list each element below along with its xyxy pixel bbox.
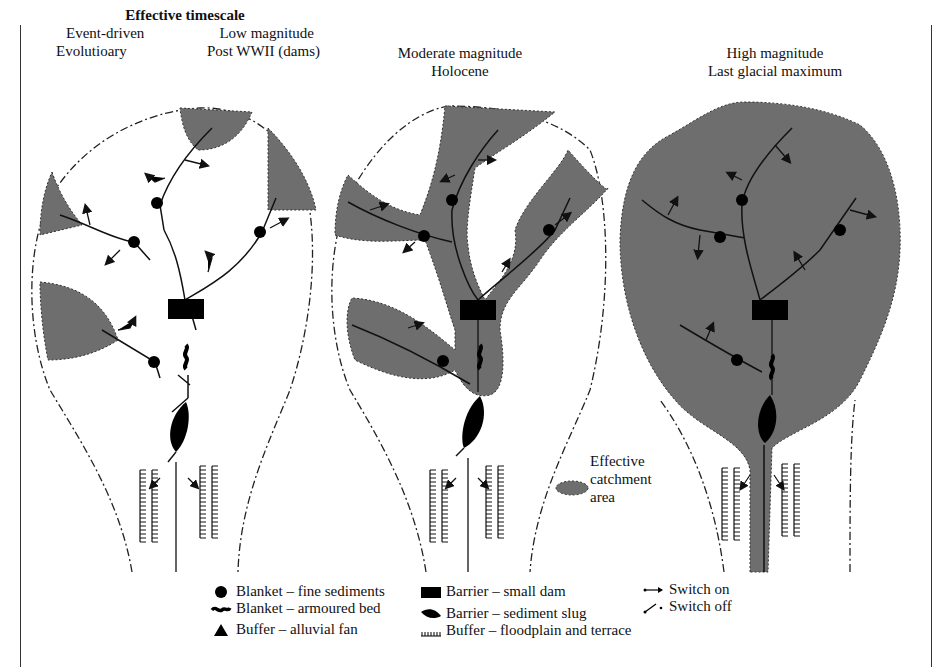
triangle-icon bbox=[210, 623, 232, 637]
legend-item: Barrier – small dam bbox=[420, 583, 631, 600]
panel3-dam bbox=[752, 300, 788, 320]
legend-label: Buffer – floodplain and terrace bbox=[446, 622, 631, 639]
legend-label: Blanket – armoured bed bbox=[236, 600, 381, 617]
catchment-label-line1: Effective bbox=[590, 452, 652, 470]
legend-label: Switch off bbox=[669, 598, 732, 615]
catchment-diagram bbox=[0, 0, 949, 667]
legend-item: Blanket – fine sediments bbox=[210, 583, 385, 600]
legend-item: Blanket – armoured bed bbox=[210, 600, 385, 617]
legend-label: Blanket – fine sediments bbox=[236, 583, 385, 600]
legend-label: Barrier – small dam bbox=[446, 583, 566, 600]
sediment-slug-icon bbox=[420, 607, 442, 621]
panel3-catchment-area bbox=[620, 102, 900, 572]
legend-item: Switch on bbox=[643, 581, 732, 598]
legend-item: Switch off bbox=[643, 598, 732, 615]
legend-label: Barrier – sediment slug bbox=[446, 605, 586, 622]
switch-off-arrow-icon bbox=[643, 600, 665, 614]
rectangle-dam-icon bbox=[420, 585, 442, 599]
legend-item: Barrier – sediment slug bbox=[420, 605, 631, 622]
floodplain-hatch-icon bbox=[420, 624, 442, 638]
wavy-bed-icon bbox=[210, 602, 232, 616]
catchment-label-line2: catchment bbox=[590, 470, 652, 488]
panel1-low-magnitude bbox=[32, 108, 316, 572]
catchment-label-line3: area bbox=[590, 488, 652, 506]
legend-col1: Blanket – fine sediments Blanket – armou… bbox=[210, 583, 385, 638]
switch-on-arrow-icon bbox=[643, 583, 665, 597]
panel2-dam bbox=[460, 300, 496, 320]
legend-item: Buffer – floodplain and terrace bbox=[420, 622, 631, 639]
legend-label: Switch on bbox=[669, 581, 729, 598]
panel2-moderate-magnitude bbox=[332, 106, 608, 572]
filled-circle-icon bbox=[210, 585, 232, 599]
panel3-high-magnitude bbox=[620, 102, 900, 572]
catchment-legend-swatch bbox=[556, 481, 588, 495]
catchment-label: Effective catchment area bbox=[590, 452, 652, 506]
panel1-dam bbox=[168, 299, 204, 319]
legend-col2: Barrier – small dam Barrier – sediment s… bbox=[420, 583, 631, 639]
legend-label: Buffer – alluvial fan bbox=[236, 621, 358, 638]
legend-col3: Switch on Switch off bbox=[643, 581, 732, 615]
legend-item: Buffer – alluvial fan bbox=[210, 621, 385, 638]
